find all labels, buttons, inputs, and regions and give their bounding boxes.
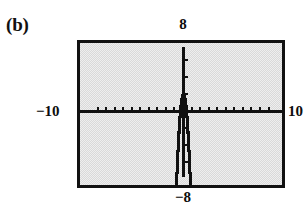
x-axis-tick (148, 107, 150, 111)
x-axis-tick (105, 107, 107, 111)
y-axis (182, 47, 185, 177)
x-axis-tick (250, 107, 252, 111)
plot-canvas (80, 43, 282, 185)
x-axis-tick (173, 107, 175, 111)
x-axis-tick (199, 107, 201, 111)
x-axis-tick (191, 107, 193, 111)
x-axis-tick (208, 107, 210, 111)
x-axis-tick (259, 107, 261, 111)
y-max-label: 8 (0, 16, 307, 32)
x-min-label: −10 (36, 103, 60, 119)
x-axis-tick (242, 107, 244, 111)
x-axis-tick (233, 107, 235, 111)
curve-pixel (189, 184, 192, 185)
x-axis-tick (165, 107, 167, 111)
calculator-screen (77, 40, 285, 188)
y-min-label: −8 (0, 189, 307, 205)
x-axis-tick (114, 107, 116, 111)
x-axis-tick (216, 107, 218, 111)
figure-root: (b) 8 −8 −10 10 (0, 0, 307, 211)
x-axis-tick (156, 107, 158, 111)
x-axis-tick (268, 107, 270, 111)
y-axis-tick (184, 76, 188, 78)
x-axis-tick (97, 107, 99, 111)
x-axis-tick (225, 107, 227, 111)
x-axis-tick (122, 107, 124, 111)
y-axis-tick (184, 161, 188, 163)
y-axis-tick (184, 59, 188, 61)
x-axis-tick (131, 107, 133, 111)
x-max-label: 10 (288, 103, 303, 119)
x-axis-tick (139, 107, 141, 111)
